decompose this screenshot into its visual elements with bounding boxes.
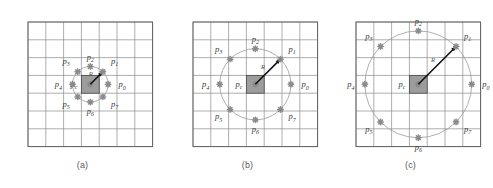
sample-marker-p4	[217, 82, 222, 87]
radius-label: R	[430, 56, 435, 63]
sample-label-p7: p7	[287, 111, 296, 122]
sample-marker-p1	[453, 44, 458, 49]
sample-marker-p0	[288, 82, 293, 87]
sample-marker-p3	[378, 44, 383, 49]
sample-label-p0: p0	[300, 79, 308, 90]
sample-marker-p2	[416, 28, 421, 33]
panel-c: Rpcp0p1p2p3p4p5p6p7 (c)	[328, 0, 493, 188]
sample-marker-p5	[227, 107, 232, 112]
center-pixel-label: pc	[397, 79, 405, 90]
sample-label-p7: p7	[110, 99, 119, 110]
radius-ray	[255, 59, 280, 84]
radius-ray	[418, 47, 456, 85]
sample-marker-p0	[105, 82, 110, 87]
panel-a: Rpcp0p1p2p3p4p5p6p7 (a)	[0, 0, 165, 188]
sample-label-p7: p7	[463, 124, 472, 135]
sample-marker-p2	[88, 64, 93, 69]
center-pixel-label: pc	[234, 79, 242, 90]
sample-label-p4: p4	[346, 79, 354, 90]
sample-label-p6: p6	[86, 106, 94, 117]
panel-c-diagram: Rpcp0p1p2p3p4p5p6p7	[328, 0, 493, 160]
sample-label-p2: p2	[86, 52, 94, 63]
sample-marker-p0	[469, 82, 474, 87]
sample-label-p4: p4	[54, 79, 62, 90]
sample-label-p5: p5	[61, 99, 69, 110]
sample-marker-p3	[227, 56, 232, 61]
sample-label-p0: p0	[118, 79, 126, 90]
sample-label-p0: p0	[481, 79, 489, 90]
sample-marker-p1	[100, 69, 105, 74]
sample-marker-p4	[70, 82, 75, 87]
sample-marker-p7	[100, 94, 105, 99]
panel-c-caption: (c)	[328, 160, 493, 170]
sample-marker-p6	[88, 99, 93, 104]
lbp-neighbourhood-figure: Rpcp0p1p2p3p4p5p6p7 (a) Rpcp0p1p2p3p4p5p…	[0, 0, 493, 188]
panel-b-caption: (b)	[165, 160, 330, 170]
panel-a-diagram: Rpcp0p1p2p3p4p5p6p7	[0, 0, 165, 160]
sample-label-p5: p5	[214, 111, 222, 122]
sample-marker-p7	[453, 119, 458, 124]
sample-marker-p4	[362, 82, 367, 87]
sample-label-p1: p1	[287, 44, 295, 55]
sample-marker-p1	[278, 56, 283, 61]
sample-marker-p6	[416, 135, 421, 140]
sample-label-p4: p4	[201, 79, 209, 90]
sample-label-p1: p1	[463, 31, 471, 42]
sample-marker-p7	[278, 107, 283, 112]
radius-label: R	[260, 63, 265, 70]
panel-b: Rpcp0p1p2p3p4p5p6p7 (b)	[165, 0, 330, 188]
sample-marker-p2	[253, 46, 258, 51]
sample-label-p6: p6	[251, 124, 259, 135]
sample-label-p3: p3	[364, 31, 372, 42]
sample-label-p6: p6	[414, 142, 422, 153]
sample-marker-p3	[75, 69, 80, 74]
sample-label-p2: p2	[251, 34, 259, 45]
panel-a-caption: (a)	[0, 160, 165, 170]
sample-label-p5: p5	[364, 124, 372, 135]
sample-label-p2: p2	[414, 16, 422, 27]
panel-b-diagram: Rpcp0p1p2p3p4p5p6p7	[165, 0, 330, 160]
sample-marker-p5	[75, 94, 80, 99]
sample-marker-p6	[253, 117, 258, 122]
sample-marker-p5	[378, 119, 383, 124]
radius-label: R	[88, 70, 93, 77]
sample-label-p3: p3	[214, 44, 222, 55]
